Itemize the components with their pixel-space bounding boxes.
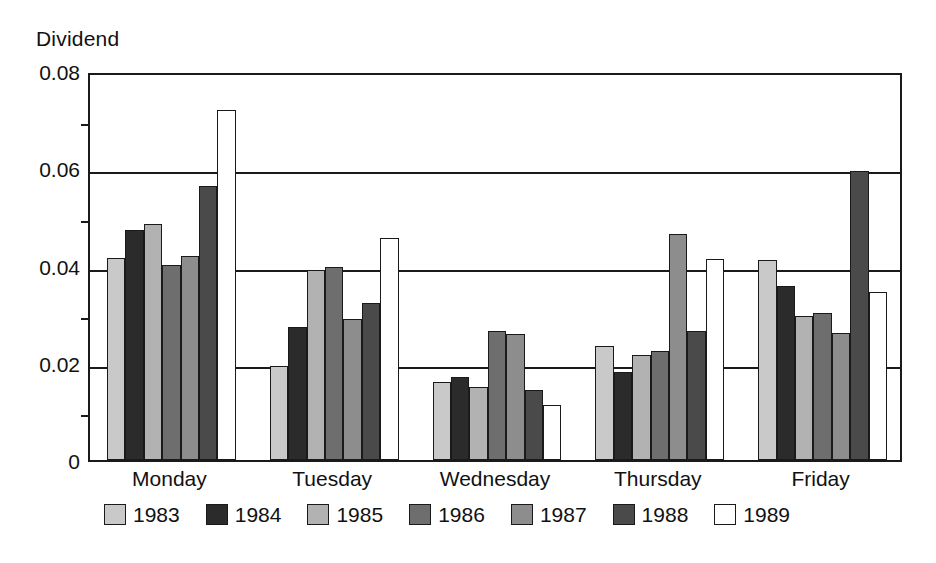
bar[interactable] <box>777 286 795 460</box>
plot-area <box>88 73 902 462</box>
bar[interactable] <box>758 260 776 460</box>
x-axis-tick-label: Friday <box>791 466 849 492</box>
bar[interactable] <box>469 387 487 460</box>
legend-item[interactable]: 1986 <box>409 504 485 525</box>
legend-item[interactable]: 1988 <box>613 504 689 525</box>
legend-item[interactable]: 1985 <box>307 504 383 525</box>
bar[interactable] <box>217 110 235 460</box>
bar[interactable] <box>706 259 724 460</box>
bar[interactable] <box>850 171 868 460</box>
y-axis-tick-label: 0.08 <box>39 62 80 83</box>
bar[interactable] <box>307 270 325 460</box>
legend-swatch-icon <box>511 504 533 525</box>
x-axis-tick-labels: MondayTuesdayWednesdayThursdayFriday <box>88 466 902 496</box>
legend-item[interactable]: 1989 <box>714 504 790 525</box>
y-axis-tick-label: 0.02 <box>39 354 80 375</box>
bar[interactable] <box>144 224 162 460</box>
bar[interactable] <box>543 405 561 460</box>
y-axis-tick-label: 0.06 <box>39 159 80 180</box>
legend-item[interactable]: 1983 <box>104 504 180 525</box>
legend-item-label: 1987 <box>540 504 587 525</box>
legend-swatch-icon <box>104 504 126 525</box>
bar[interactable] <box>107 258 125 460</box>
bar[interactable] <box>343 319 361 460</box>
legend-swatch-icon <box>714 504 736 525</box>
legend-item-label: 1985 <box>336 504 383 525</box>
x-axis-tick-label: Wednesday <box>440 466 551 492</box>
bar[interactable] <box>433 382 451 460</box>
bar[interactable] <box>181 256 199 460</box>
bar[interactable] <box>325 267 343 460</box>
x-axis-tick-label: Monday <box>132 466 207 492</box>
bar[interactable] <box>614 372 632 460</box>
bar[interactable] <box>362 303 380 460</box>
y-axis-tick-labels: 0.080.060.040.020 <box>0 73 80 462</box>
bar-group <box>90 75 253 460</box>
y-axis-minor-tick <box>81 318 90 320</box>
bar[interactable] <box>813 313 831 460</box>
bar[interactable] <box>288 327 306 460</box>
legend-item-label: 1983 <box>133 504 180 525</box>
bar[interactable] <box>687 331 705 460</box>
x-axis-tick-label: Tuesday <box>292 466 372 492</box>
bar[interactable] <box>506 334 524 460</box>
legend-item-label: 1988 <box>642 504 689 525</box>
bar[interactable] <box>270 366 288 460</box>
legend-item[interactable]: 1987 <box>511 504 587 525</box>
bar[interactable] <box>488 331 506 460</box>
legend-item-label: 1986 <box>438 504 485 525</box>
bar[interactable] <box>795 316 813 460</box>
bar[interactable] <box>162 265 180 460</box>
bar[interactable] <box>525 390 543 461</box>
bar[interactable] <box>380 238 398 460</box>
bar[interactable] <box>199 186 217 460</box>
y-axis-tick-label: 0.04 <box>39 257 80 278</box>
bar-group <box>741 75 904 460</box>
legend-item-label: 1984 <box>235 504 282 525</box>
bar[interactable] <box>869 292 887 460</box>
chart-legend: 1983198419851986198719881989 <box>104 501 816 527</box>
y-axis-minor-tick <box>81 415 90 417</box>
bar[interactable] <box>125 230 143 460</box>
legend-item-label: 1989 <box>743 504 790 525</box>
bar[interactable] <box>451 377 469 460</box>
bar-group <box>253 75 416 460</box>
y-axis-minor-tick <box>81 124 90 126</box>
y-axis-minor-tick <box>81 221 90 223</box>
bar-group <box>416 75 579 460</box>
y-axis-title: Dividend <box>36 27 119 51</box>
legend-swatch-icon <box>206 504 228 525</box>
bar-group <box>578 75 741 460</box>
dividend-bar-chart-figure: Dividend 0.080.060.040.020 MondayTuesday… <box>0 0 936 563</box>
legend-swatch-icon <box>409 504 431 525</box>
bar[interactable] <box>632 355 650 460</box>
bar[interactable] <box>669 234 687 460</box>
legend-swatch-icon <box>613 504 635 525</box>
legend-swatch-icon <box>307 504 329 525</box>
bar[interactable] <box>651 351 669 460</box>
legend-item[interactable]: 1984 <box>206 504 282 525</box>
bar[interactable] <box>832 333 850 460</box>
x-axis-tick-label: Thursday <box>614 466 702 492</box>
y-axis-tick-label: 0 <box>68 451 80 472</box>
bar[interactable] <box>595 346 613 460</box>
